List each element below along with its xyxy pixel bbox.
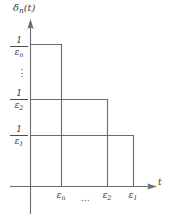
x-tick-1-subscript: 1 <box>133 194 137 202</box>
x-tick-label-n: εn <box>50 191 72 201</box>
y-tick-2-subscript: 2 <box>19 104 23 112</box>
y-ellipsis-dot-3: . <box>17 73 27 77</box>
y-tick-n-numerator: 1 <box>10 36 28 47</box>
y-tick-1-subscript: 1 <box>19 140 23 148</box>
y-tick-2-denominator: ε2 <box>10 100 28 111</box>
pulse-step-n <box>31 45 62 187</box>
x-tick-label-1: ε1 <box>122 191 144 201</box>
y-tick-label-2: 1 ε2 <box>10 89 28 111</box>
x-tick-2-subscript: 2 <box>107 194 111 202</box>
y-axis-title-argument: (t) <box>24 2 36 13</box>
pulse-step-2 <box>31 100 108 187</box>
y-tick-label-n: 1 εn <box>10 36 28 58</box>
x-tick-n-subscript: n <box>61 194 65 202</box>
y-tick-1-numerator: 1 <box>10 125 28 136</box>
y-tick-label-1: 1 ε1 <box>10 125 28 147</box>
y-tick-n-denominator: εn <box>10 47 28 58</box>
y-tick-n-subscript: n <box>19 51 23 59</box>
y-axis-ellipsis: . . . <box>17 66 27 77</box>
x-axis-ellipsis: … <box>76 193 96 203</box>
y-axis-title: δn(t) <box>13 3 36 14</box>
x-tick-label-2: ε2 <box>96 191 118 201</box>
pulse-step-1 <box>31 136 134 187</box>
step-function-figure: δn(t) t 1 εn . . . 1 ε2 1 ε1 εn … ε2 ε1 <box>0 0 171 214</box>
y-tick-2-numerator: 1 <box>10 89 28 100</box>
x-axis-title: t <box>158 178 162 187</box>
y-tick-1-denominator: ε1 <box>10 136 28 147</box>
